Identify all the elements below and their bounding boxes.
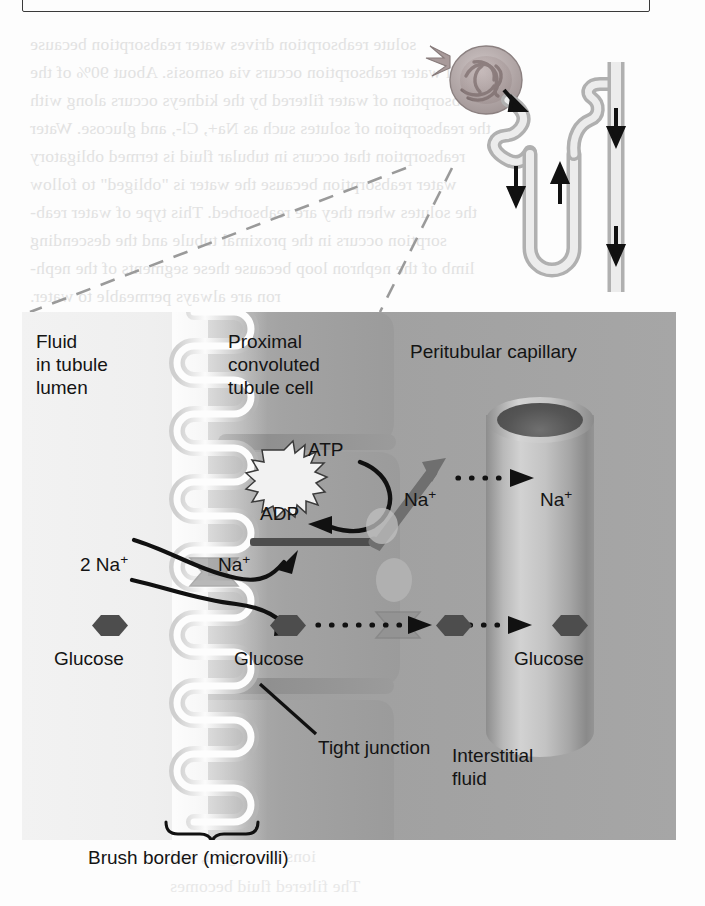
ghost-line: ron are always permeable to water. — [30, 286, 281, 307]
label-glucose-lumen: Glucose — [54, 647, 124, 670]
cropped-text-box — [22, 0, 650, 12]
label-sodium-cell: Na+ — [218, 529, 250, 577]
ghost-line: sorption occurs in the proximal tubule a… — [30, 230, 447, 251]
label-glucose-cell: Glucose — [234, 647, 304, 670]
sodium-influx-arrowhead — [278, 550, 298, 574]
ghost-line: The filtered fluid becomes — [170, 876, 360, 897]
label-peritubular-capillary: Peritubular capillary — [410, 340, 577, 363]
leader-line-left — [30, 168, 406, 312]
label-sodium-lumen: 2 Na+ — [80, 529, 128, 577]
tight-junction-leader — [260, 684, 316, 734]
sodium-interstitium-charge: + — [428, 487, 436, 502]
nephron-inset-illustration — [404, 28, 666, 314]
label-brush-border: Brush border (microvilli) — [88, 846, 289, 869]
label-sodium-capillary: Na+ — [540, 464, 572, 512]
label-sodium-interstitium: Na+ — [404, 464, 436, 512]
label-tubule-cell: Proximal convoluted tubule cell — [228, 330, 320, 400]
label-tubule-lumen: Fluid in tubule lumen — [36, 330, 108, 400]
ghost-line: solute reabsorption drives water reabsor… — [30, 34, 416, 55]
sodium-capillary-text: Na — [540, 490, 564, 511]
glucose-diffusion-arrowhead-2 — [508, 616, 532, 634]
sodium-cell-text: Na — [218, 555, 242, 576]
figure-page: solute reabsorption drives water reabsor… — [0, 0, 705, 906]
label-interstitial-fluid: Interstitial fluid — [452, 744, 533, 790]
ghost-line: all water reabsorption occurs via osmosi… — [30, 62, 464, 83]
sodium-cell-charge: + — [242, 552, 250, 567]
ghost-line: water reabsorption because the water is … — [30, 174, 457, 195]
ghost-line: reabsorption that occurs in tubular flui… — [30, 146, 465, 167]
sodium-lumen-text: 2 Na — [80, 555, 120, 576]
reabsorption-diagram-panel: Fluid in tubule lumen Proximal convolute… — [22, 312, 676, 840]
label-tight-junction: Tight junction — [318, 736, 430, 759]
label-glucose-capillary: Glucose — [514, 647, 584, 670]
sodium-capillary-charge: + — [564, 487, 572, 502]
brush-border-brace — [166, 822, 258, 840]
sodium-diffusion-arrowhead — [510, 469, 534, 487]
glucose-diffusion-arrowhead-1 — [408, 616, 432, 634]
label-atp: ATP — [308, 438, 344, 461]
atp-hydrolysis-arrowhead — [308, 516, 332, 534]
label-adp: ADP — [260, 502, 299, 525]
sodium-interstitium-text: Na — [404, 490, 428, 511]
sodium-lumen-charge: + — [120, 552, 128, 567]
